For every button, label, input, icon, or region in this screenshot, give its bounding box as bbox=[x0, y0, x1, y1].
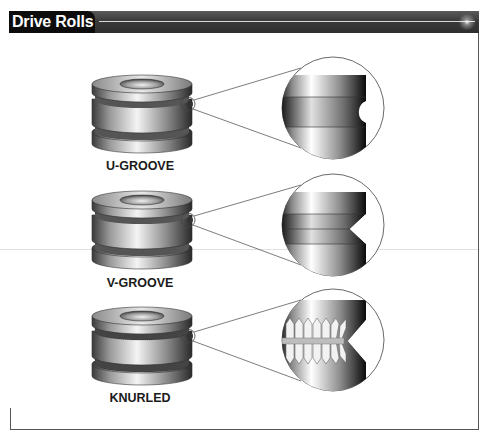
v-groove-label: V-GROOVE bbox=[80, 276, 200, 290]
drive-rolls-illustration bbox=[0, 0, 486, 436]
knurled-roll bbox=[92, 289, 384, 395]
v-groove-roll bbox=[92, 174, 384, 284]
u-groove-roll bbox=[92, 57, 384, 167]
knurled-label: KNURLED bbox=[80, 391, 200, 405]
u-groove-label: U-GROOVE bbox=[80, 159, 200, 173]
